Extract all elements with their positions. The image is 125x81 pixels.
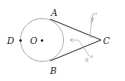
label-b: B — [49, 66, 57, 76]
label-c: C — [103, 36, 110, 46]
angle-x-degree: o — [90, 53, 93, 59]
center-dot — [41, 39, 43, 41]
label-o: O — [30, 36, 38, 46]
point-d-dot — [19, 39, 21, 41]
angle-y-degree: o — [94, 10, 97, 16]
label-a: A — [50, 8, 58, 18]
angle-x-label: x — [85, 56, 89, 64]
angle-y-label: y — [89, 15, 95, 23]
tangent-bc — [50, 40, 101, 61]
angle-x-marker — [70, 40, 89, 56]
geometry-diagram: A B C D O y o x o — [0, 0, 125, 81]
label-d: D — [6, 36, 14, 46]
